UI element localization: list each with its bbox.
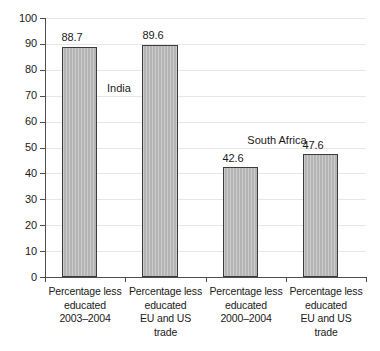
x-category-line: trade: [125, 326, 206, 340]
y-tick-label-70: 70: [7, 90, 37, 101]
x-tick-mark-1: [125, 277, 126, 282]
y-tick-mark-40: [40, 173, 45, 174]
y-tick-mark-80: [40, 70, 45, 71]
bar-2: [142, 45, 178, 277]
y-tick-label-50: 50: [7, 142, 37, 153]
bar-value-label-1: 88.7: [50, 32, 94, 43]
bar-1: [62, 47, 97, 277]
x-category-line: educated: [125, 299, 206, 313]
x-category-line: Percentage less: [286, 285, 366, 299]
x-category-line: EU and US: [286, 312, 366, 326]
y-tick-label-80: 80: [7, 64, 37, 75]
x-tick-mark-0: [45, 277, 46, 282]
y-tick-mark-20: [40, 225, 45, 226]
x-category-line: Percentage less: [125, 285, 206, 299]
x-category-label-3: Percentage less educated 2000–2004: [206, 285, 286, 326]
annotation-india: India: [96, 83, 142, 94]
x-tick-mark-3: [286, 277, 287, 282]
bar-4: [303, 154, 338, 277]
y-tick-label-20: 20: [7, 220, 37, 231]
y-tick-label-30: 30: [7, 194, 37, 205]
bar-value-label-3: 42.6: [211, 153, 255, 164]
y-tick-mark-60: [40, 122, 45, 123]
bar-value-label-2: 89.6: [131, 30, 175, 41]
y-tick-label-40: 40: [7, 168, 37, 179]
x-category-line: EU and US: [125, 312, 206, 326]
x-tick-mark-2: [206, 277, 207, 282]
y-tick-mark-30: [40, 199, 45, 200]
x-category-line: Percentage less: [206, 285, 286, 299]
x-category-line: educated: [286, 299, 366, 313]
y-tick-mark-10: [40, 251, 45, 252]
x-category-line: educated: [45, 299, 125, 313]
x-category-line: trade: [286, 326, 366, 340]
x-category-label-4: Percentage less educated EU and US trade: [286, 285, 366, 339]
bar-3: [223, 167, 258, 277]
x-category-line: educated: [206, 299, 286, 313]
y-tick-mark-70: [40, 96, 45, 97]
x-tick-mark-4: [366, 277, 367, 282]
y-tick-label-0: 0: [7, 272, 37, 283]
bar-chart: 100 90 80 70 60 50 40 30 20 10 0 88.7 89…: [0, 0, 380, 351]
annotation-south-africa: South Africa: [241, 135, 313, 146]
y-tick-mark-50: [40, 148, 45, 149]
y-tick-mark-100: [40, 18, 45, 19]
y-tick-label-10: 10: [7, 246, 37, 257]
x-category-label-2: Percentage less educated EU and US trade: [125, 285, 206, 339]
x-category-label-1: Percentage less educated 2003–2004: [45, 285, 125, 326]
y-tick-mark-90: [40, 44, 45, 45]
gridline-100: [45, 18, 366, 19]
gridline-90: [45, 44, 366, 45]
y-tick-label-90: 90: [7, 38, 37, 49]
x-category-line: Percentage less: [45, 285, 125, 299]
y-axis-line: [45, 18, 46, 278]
x-category-line: 2003–2004: [45, 312, 125, 326]
y-tick-label-60: 60: [7, 116, 37, 127]
x-category-line: 2000–2004: [206, 312, 286, 326]
y-tick-label-100: 100: [7, 13, 37, 24]
